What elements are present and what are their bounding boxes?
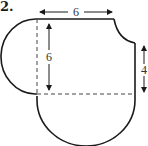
right-height-label: 4 (141, 63, 147, 77)
composite-shape-diagram: 6 6 4 (0, 0, 148, 146)
top-width-label: 6 (73, 5, 79, 19)
shape-outline (1, 19, 135, 146)
bottom-semicircle (37, 96, 135, 146)
notch-arc (114, 19, 135, 43)
left-height-label: 6 (46, 50, 52, 64)
left-semicircle (1, 19, 37, 94)
